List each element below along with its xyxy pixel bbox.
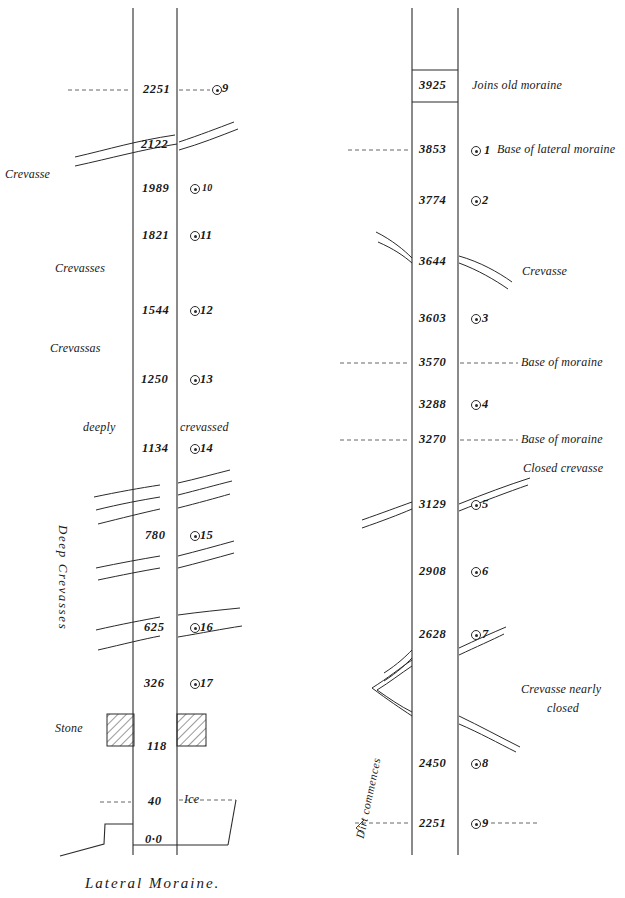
crevasse-trace-2450-b <box>459 724 516 752</box>
depth-label: 326 <box>144 677 165 690</box>
crevasse-trace-2450-a <box>459 716 520 747</box>
diagram-sheet: 2251 2122 1989 1821 1544 1250 1134 780 6… <box>0 0 625 898</box>
station-number: 11 <box>200 229 212 242</box>
station-number: 8 <box>482 757 488 770</box>
crevasse-trace-r2 <box>178 481 232 495</box>
depth-label: 3570 <box>419 356 446 369</box>
depth-label: 2450 <box>419 757 446 770</box>
station-number: 7 <box>482 628 488 641</box>
crevasse-trace-l1 <box>94 485 160 497</box>
station-number: 2 <box>482 194 488 207</box>
station-number: 4 <box>482 398 488 411</box>
station-number: 3 <box>482 312 488 325</box>
crevasse-trace-3129-c <box>459 478 530 504</box>
station-marker <box>471 400 481 410</box>
depth-label: 3925 <box>419 79 446 92</box>
crevasse-trace-2122-c <box>179 122 234 142</box>
station-marker <box>212 85 222 95</box>
station-marker <box>471 630 481 640</box>
depth-label: 3270 <box>419 433 446 446</box>
crevasse-trace-l2 <box>96 497 160 510</box>
station-number: 16 <box>200 621 213 634</box>
annotation-crevassas: Crevassas <box>50 342 101 354</box>
station-number: 6 <box>482 565 488 578</box>
annotation-base-of-moraine-1: Base of moraine <box>521 356 603 368</box>
ground-profile-left <box>60 824 133 856</box>
annotation-deeply: deeply <box>83 421 116 433</box>
station-number: 10 <box>202 183 212 193</box>
depth-label: 1134 <box>142 442 169 455</box>
depth-label: 2628 <box>419 628 446 641</box>
crevasse-trace-r4 <box>178 541 234 556</box>
annotation-crevasses: Crevasses <box>55 262 105 274</box>
crevasse-trace-3644-d <box>459 263 508 289</box>
crevasse-trace-3644-c <box>459 256 512 282</box>
crevasse-trace-v-upper <box>372 660 412 688</box>
crevasse-trace-l5 <box>98 568 160 580</box>
crevasse-trace-r3 <box>178 494 230 508</box>
station-marker <box>190 444 200 454</box>
station-number: 14 <box>200 442 213 455</box>
depth-label: 2908 <box>419 565 446 578</box>
crevasse-trace-3129-d <box>459 485 528 511</box>
crevasse-trace-r5 <box>178 553 234 568</box>
depth-label: 780 <box>145 529 166 542</box>
annotation-closed-crevasse: Closed crevasse <box>523 462 603 474</box>
annotation-crevassed: crevassed <box>180 421 229 433</box>
annotation-crevasse: Crevasse <box>5 168 50 180</box>
station-marker <box>190 375 200 385</box>
crevasse-trace-v-lower2 <box>377 690 412 712</box>
depth-label: 3288 <box>419 398 446 411</box>
station-marker <box>190 231 200 241</box>
annotation-stone: Stone <box>55 722 83 734</box>
crevasse-trace-l4 <box>96 556 160 568</box>
annotation-ice: Ice <box>184 793 199 805</box>
crevasse-trace-3129-a <box>362 502 412 520</box>
crevasse-trace-3129-b <box>362 509 412 528</box>
annotation-crevasse-closed: closed <box>547 702 579 714</box>
station-marker <box>190 531 200 541</box>
station-number: 17 <box>200 677 213 690</box>
depth-label: 118 <box>147 740 167 753</box>
station-marker <box>190 623 200 633</box>
depth-label: 1250 <box>141 373 168 386</box>
annotation-base-of-moraine-2: Base of moraine <box>521 433 603 445</box>
station-number: 15 <box>200 529 213 542</box>
depth-label: 3774 <box>419 194 446 207</box>
crevasse-trace-l7 <box>98 636 160 650</box>
station-number: 13 <box>200 373 213 386</box>
station-number: 9 <box>482 817 488 830</box>
station-marker <box>471 314 481 324</box>
depth-label: 3129 <box>419 498 446 511</box>
station-number: 9 <box>222 82 228 95</box>
crevasse-trace-l3 <box>98 509 160 524</box>
station-marker <box>471 146 481 156</box>
crevasse-trace-3644-a <box>376 232 412 258</box>
station-marker <box>471 500 481 510</box>
station-marker <box>190 184 200 194</box>
ice-slope-line <box>228 800 236 845</box>
depth-label: 1544 <box>142 304 169 317</box>
crevasse-trace-v-upper2 <box>377 666 412 690</box>
depth-label: 2251 <box>419 817 446 830</box>
annotation-crevasse-nearly: Crevasse nearly <box>521 683 601 695</box>
depth-label: 1821 <box>142 229 169 242</box>
crevasse-trace-r6 <box>178 608 240 615</box>
stone-block-right <box>177 714 206 746</box>
crevasse-trace-3644-b <box>378 242 412 263</box>
depth-label: 625 <box>144 621 165 634</box>
station-marker <box>190 306 200 316</box>
annotation-joins-old-moraine: Joins old moraine <box>472 79 562 91</box>
station-number: 1 <box>484 144 490 157</box>
crevasse-trace-2628-a <box>384 650 412 673</box>
stone-block-left <box>107 714 134 746</box>
annotation-deep-crevasses: Deep Crevasses <box>57 525 70 630</box>
crevasse-trace-2122-d <box>179 129 238 150</box>
depth-label: 1989 <box>142 182 169 195</box>
depth-label: 3644 <box>419 255 446 268</box>
station-number: 12 <box>200 304 213 317</box>
station-marker <box>190 679 200 689</box>
station-marker <box>471 567 481 577</box>
figure-caption: Lateral Moraine. <box>85 876 220 891</box>
crevasse-trace-r1 <box>178 470 230 483</box>
